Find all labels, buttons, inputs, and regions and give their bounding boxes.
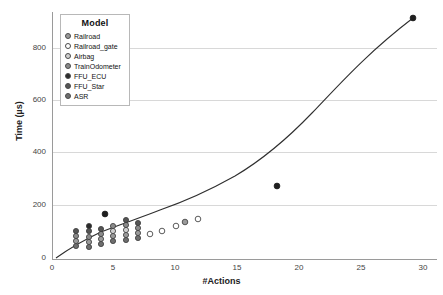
y-tick-label: 0 [20,253,46,262]
x-tick-label: 0 [39,263,65,272]
legend-marker-icon [65,43,71,49]
chart-container: 800 600 400 200 0 0 5 10 15 20 25 30 Tim… [0,0,443,295]
legend-item-label: FFU_Star [74,82,104,91]
data-point [123,217,128,222]
data-point [86,223,91,228]
legend-item-label: Railroad_gate [74,42,118,51]
legend-item-ffu-star[interactable]: FFU_Star [65,81,125,91]
y-tick-label: 800 [20,43,46,52]
legend-item-asr[interactable]: ASR [65,91,125,101]
data-point-open [147,231,153,237]
data-point [98,241,103,246]
data-point-outlier [102,211,108,217]
x-tick-label: 15 [224,263,250,272]
data-point [123,237,128,242]
legend-item-railroad[interactable]: Railroad [65,31,125,41]
legend-item-label: TrainOdometer [74,62,121,71]
legend-item-airbag[interactable]: Airbag [65,51,125,61]
data-point [135,230,140,235]
data-point-open [195,216,201,222]
data-point [182,219,188,225]
data-point [123,222,128,227]
legend-item-label: ASR [74,92,88,101]
legend-title: Model [65,18,125,28]
x-tick-label: 20 [286,263,312,272]
data-point [73,233,78,238]
data-point [135,225,140,230]
data-point [135,220,140,225]
legend-marker-icon [65,83,71,89]
x-tick-label: 10 [162,263,188,272]
data-point [110,223,115,228]
data-point [86,244,91,249]
data-point [86,228,91,233]
data-point [73,238,78,243]
data-point [73,228,78,233]
data-point [110,228,115,233]
legend-marker-icon [65,33,71,39]
legend-marker-icon [65,53,71,59]
y-tick-label: 200 [20,200,46,209]
data-point [98,231,103,236]
data-point [135,235,140,240]
data-point [123,227,128,232]
data-point [73,243,78,248]
data-point [86,239,91,244]
data-point [410,15,416,21]
legend-item-label: Airbag [74,52,94,61]
legend-item-railroad-gate[interactable]: Railroad_gate [65,41,125,51]
data-point [98,236,103,241]
data-point [98,226,103,231]
x-tick-label: 5 [100,263,126,272]
data-point-open [173,223,179,229]
legend-item-label: FFU_ECU [74,72,106,81]
legend-item-ffu-ecu[interactable]: FFU_ECU [65,71,125,81]
data-point [110,238,115,243]
data-point-open [159,228,165,234]
legend-item-label: Railroad [74,32,100,41]
x-axis-title: #Actions [0,276,443,286]
data-point [86,234,91,239]
legend-marker-icon [65,63,71,69]
data-point [123,232,128,237]
legend: Model Railroad Railroad_gate Airbag Trai… [60,14,130,106]
y-axis-title: Time (µs) [14,76,24,166]
x-tick-label: 30 [410,263,436,272]
legend-item-trainodometer[interactable]: TrainOdometer [65,61,125,71]
data-point [274,183,280,189]
data-point [110,233,115,238]
legend-marker-icon [65,93,71,99]
legend-marker-icon [65,73,71,79]
x-tick-label: 25 [348,263,374,272]
